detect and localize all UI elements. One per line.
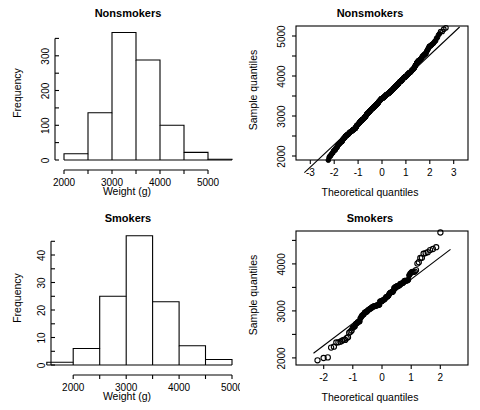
svg-text:3: 3 [451,167,457,178]
svg-text:-2: -2 [330,167,339,178]
smokers-histogram-svg: Smokers 010203040 2000300040005000 Weigh… [0,205,240,410]
nonsmokers-histogram-bars [64,33,232,161]
smokers-qqplot-title: Smokers [347,212,393,224]
nonsmokers-qqplot-xlabel: Theoretical quantiles [322,186,419,198]
svg-text:4000: 4000 [168,382,191,393]
svg-text:2: 2 [427,167,433,178]
svg-text:100: 100 [40,117,51,134]
smokers-qqplot-svg: Smokers 200030004000 -2-1012 Theoretical… [240,205,480,410]
figure-canvas: Nonsmokers 0100200300 2000300040005000 W… [0,0,480,410]
svg-text:5000: 5000 [197,177,220,188]
svg-text:10: 10 [36,332,47,344]
panel-nonsmokers-qqplot: Nonsmokers 2000300040005000 -3-2-10123 T… [240,0,480,205]
svg-text:0: 0 [40,157,51,163]
svg-text:0: 0 [379,372,385,383]
svg-text:5000: 5000 [221,382,240,393]
smokers-qqplot-points [315,230,443,363]
nonsmokers-qqplot-reference-line [304,27,459,173]
nonsmokers-histogram-ylabel: Frequency [11,67,23,117]
nonsmokers-qqplot-points [326,26,448,163]
svg-text:2: 2 [438,372,444,383]
svg-text:200: 200 [40,82,51,99]
svg-text:4000: 4000 [276,65,287,88]
smokers-histogram-y-axis: 010203040 [36,241,55,368]
svg-text:3000: 3000 [276,300,287,323]
smokers-histogram-bars [47,236,232,365]
smokers-histogram-xlabel: Weight (g) [103,390,151,402]
nonsmokers-histogram-y-axis: 0100200300 [40,38,59,163]
panel-smokers-qqplot: Smokers 200030004000 -2-1012 Theoretical… [240,205,480,410]
smokers-qqplot-x-axis: -2-1012 [319,365,443,383]
panel-smokers-histogram: Smokers 010203040 2000300040005000 Weigh… [0,205,240,410]
smokers-qqplot-ylabel: Sample quantiles [247,255,259,336]
nonsmokers-qqplot-frame [296,26,468,160]
nonsmokers-qqplot-title: Nonsmokers [337,7,404,19]
svg-text:-1: -1 [348,372,357,383]
panel-nonsmokers-histogram: Nonsmokers 0100200300 2000300040005000 W… [0,0,240,205]
smokers-histogram-ylabel: Frequency [11,272,23,322]
nonsmokers-qqplot-y-axis: 2000300040005000 [276,25,296,168]
svg-text:3000: 3000 [276,105,287,128]
svg-text:2000: 2000 [276,145,287,168]
smokers-qqplot-reference-line [314,249,451,353]
svg-text:0: 0 [36,362,47,368]
smokers-qqplot-xlabel: Theoretical quantiles [322,391,419,403]
nonsmokers-qqplot-svg: Nonsmokers 2000300040005000 -3-2-10123 T… [240,0,480,205]
svg-text:-3: -3 [306,167,315,178]
svg-text:20: 20 [36,305,47,317]
svg-text:40: 40 [36,250,47,262]
svg-text:2000: 2000 [53,177,76,188]
smokers-histogram-title: Smokers [105,212,151,224]
svg-text:1: 1 [408,372,414,383]
svg-text:4000: 4000 [276,253,287,276]
svg-text:-2: -2 [319,372,328,383]
svg-text:4000: 4000 [149,177,172,188]
svg-text:0: 0 [379,167,385,178]
smokers-qqplot-y-axis: 200030004000 [276,240,296,369]
svg-text:30: 30 [36,277,47,289]
svg-text:1: 1 [403,167,409,178]
svg-text:-1: -1 [354,167,363,178]
nonsmokers-qqplot-ylabel: Sample quantiles [247,50,259,131]
svg-text:2000: 2000 [62,382,85,393]
svg-text:5000: 5000 [276,25,287,48]
nonsmokers-histogram-svg: Nonsmokers 0100200300 2000300040005000 W… [0,0,240,205]
svg-text:300: 300 [40,48,51,65]
svg-text:2000: 2000 [276,347,287,370]
nonsmokers-histogram-xlabel: Weight (g) [103,185,151,197]
nonsmokers-histogram-title: Nonsmokers [95,7,162,19]
